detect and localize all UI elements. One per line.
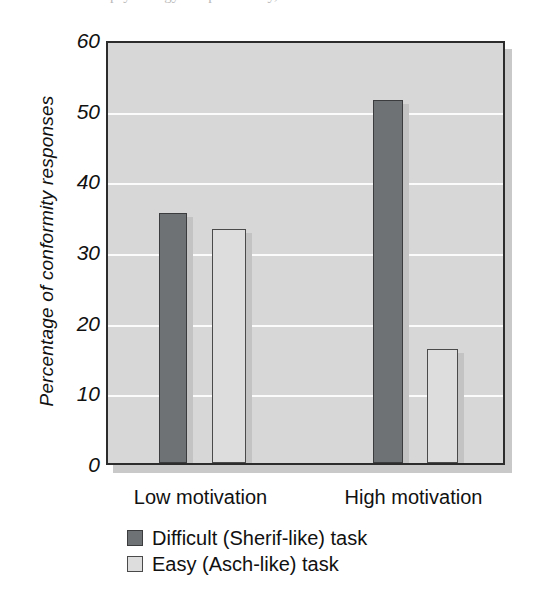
bar [159, 213, 187, 463]
x-axis-category-label: High motivation [304, 486, 524, 509]
legend-label: Easy (Asch-like) task [152, 553, 339, 576]
y-axis-tick-label: 50 [54, 101, 100, 122]
legend-label: Difficult (Sherif-like) task [152, 527, 367, 550]
y-axis-tick-label: 60 [54, 30, 100, 51]
bar [427, 349, 458, 463]
legend-item: Easy (Asch-like) task [127, 551, 367, 577]
plot-area [106, 41, 505, 465]
y-axis-tick-label: 20 [54, 313, 100, 334]
bar [373, 100, 403, 463]
gridline [108, 113, 503, 115]
chart-legend: Difficult (Sherif-like) taskEasy (Asch-l… [127, 525, 367, 577]
legend-swatch-icon [127, 556, 143, 572]
bar [212, 229, 246, 463]
x-axis-category-label: Low motivation [91, 486, 311, 509]
legend-swatch-icon [127, 530, 143, 546]
gridline [108, 183, 503, 185]
y-axis-tick-label: 40 [54, 171, 100, 192]
y-axis-tick-labels: 0102030405060 [44, 0, 100, 607]
bar-chart-figure: Percentage of conformity responses 01020… [0, 0, 557, 607]
y-axis-tick-label: 10 [54, 383, 100, 404]
y-axis-tick-label: 0 [54, 454, 100, 475]
y-axis-tick-label: 30 [54, 242, 100, 263]
legend-item: Difficult (Sherif-like) task [127, 525, 367, 551]
